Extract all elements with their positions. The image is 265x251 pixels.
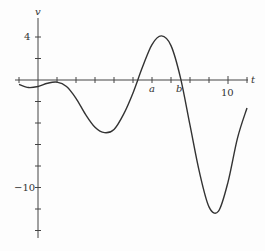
y-tick-label-4: 4 — [24, 31, 30, 42]
y-axis-label: v — [35, 6, 41, 17]
v-curve — [19, 36, 247, 213]
chart: v t 4 −10 10 a b — [0, 0, 265, 251]
chart-canvas: v t 4 −10 10 a b — [0, 0, 265, 251]
x-tick-label-10: 10 — [221, 87, 234, 98]
y-tick-label-neg10: −10 — [14, 182, 35, 193]
annotation-b: b — [176, 83, 182, 94]
x-axis-label: t — [251, 74, 256, 85]
annotation-a: a — [149, 83, 155, 94]
